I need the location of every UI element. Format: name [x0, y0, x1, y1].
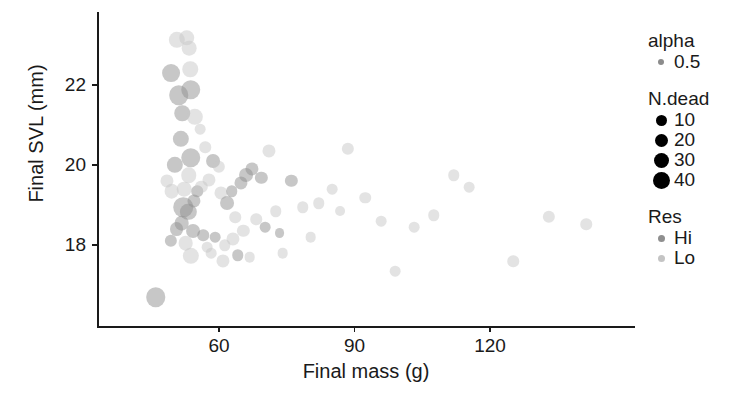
- data-point: [270, 205, 282, 217]
- legend-item[interactable]: 0.5: [648, 52, 749, 72]
- data-point: [275, 228, 285, 238]
- x-tick-label-60: 60: [189, 336, 249, 355]
- legend-swatch-icon: [648, 59, 674, 65]
- data-point: [428, 209, 440, 221]
- data-point: [342, 143, 354, 155]
- legend: alpha0.5N.dead10203040ResHiLo: [648, 30, 749, 268]
- legend-title-alpha: alpha: [648, 30, 749, 52]
- legend-item[interactable]: Hi: [648, 228, 749, 248]
- legend-dot-icon: [658, 235, 665, 242]
- data-point: [206, 248, 217, 259]
- y-tick-label-18: 18: [30, 235, 86, 254]
- data-point: [200, 141, 212, 153]
- data-point: [181, 148, 201, 168]
- data-point: [297, 201, 309, 213]
- legend-dot-icon: [654, 153, 669, 168]
- data-point: [146, 287, 166, 307]
- x-tick-120: [489, 327, 491, 332]
- legend-dot-icon: [656, 115, 667, 126]
- data-point: [464, 182, 475, 193]
- data-point: [448, 169, 460, 181]
- data-point: [277, 248, 288, 259]
- legend-item-label: 20: [674, 130, 695, 150]
- data-point: [177, 182, 192, 197]
- data-point: [305, 232, 316, 243]
- legend-item-label: 10: [674, 110, 695, 130]
- data-point: [220, 196, 234, 210]
- legend-block-n-dead: N.dead10203040: [648, 88, 749, 190]
- data-point: [210, 232, 221, 243]
- legend-item-label: Hi: [674, 228, 692, 248]
- data-point: [313, 197, 325, 209]
- x-tick-label-90: 90: [325, 336, 385, 355]
- data-point: [285, 175, 297, 187]
- legend-swatch-icon: [648, 115, 674, 126]
- legend-swatch-icon: [648, 172, 674, 189]
- legend-title-n-dead: N.dead: [648, 88, 749, 110]
- legend-item-label: 40: [674, 170, 695, 190]
- data-point: [543, 211, 555, 223]
- data-point: [203, 174, 216, 187]
- legend-item[interactable]: 30: [648, 150, 749, 170]
- scatter-plot-figure: 1820226090120 Final SVL (mm) Final mass …: [0, 0, 749, 405]
- legend-dot-icon: [653, 172, 670, 189]
- data-point: [219, 239, 231, 251]
- data-point: [360, 192, 372, 204]
- data-point: [260, 222, 271, 233]
- plot-panel: [97, 12, 635, 326]
- data-point: [217, 254, 230, 267]
- data-point: [181, 80, 201, 100]
- legend-item-label: 30: [674, 150, 695, 170]
- data-point: [195, 124, 206, 135]
- data-point: [197, 229, 209, 241]
- data-point: [237, 225, 249, 237]
- legend-spacer: [648, 190, 749, 206]
- legend-item[interactable]: 10: [648, 110, 749, 130]
- data-point: [390, 266, 401, 277]
- x-tick-90: [354, 327, 356, 332]
- legend-dot-icon: [658, 255, 665, 262]
- legend-swatch-icon: [648, 255, 674, 262]
- x-tick-60: [218, 327, 220, 332]
- data-point: [181, 167, 197, 183]
- legend-item[interactable]: Lo: [648, 248, 749, 268]
- data-point: [165, 235, 177, 247]
- legend-item-label: Lo: [674, 248, 695, 268]
- data-point: [212, 161, 224, 173]
- data-point: [508, 255, 520, 267]
- data-point: [262, 144, 275, 157]
- data-point: [327, 184, 338, 195]
- legend-block-alpha: alpha0.5: [648, 30, 749, 72]
- legend-dot-icon: [655, 134, 668, 147]
- data-point: [232, 249, 244, 261]
- data-point: [409, 222, 420, 233]
- data-point: [182, 61, 198, 77]
- legend-item[interactable]: 20: [648, 130, 749, 150]
- legend-swatch-icon: [648, 153, 674, 168]
- data-point: [580, 218, 592, 230]
- legend-item-label: 0.5: [674, 52, 700, 72]
- legend-block-res: ResHiLo: [648, 206, 749, 268]
- legend-spacer: [648, 72, 749, 88]
- data-point: [376, 216, 387, 227]
- legend-swatch-icon: [648, 235, 674, 242]
- data-point: [230, 211, 242, 223]
- data-point: [255, 172, 267, 184]
- x-axis-title: Final mass (g): [97, 360, 635, 383]
- data-point: [173, 131, 189, 147]
- x-tick-label-120: 120: [460, 336, 520, 355]
- legend-title-res: Res: [648, 206, 749, 228]
- legend-item[interactable]: 40: [648, 170, 749, 190]
- data-point: [335, 206, 345, 216]
- x-axis-line: [97, 326, 635, 328]
- data-point: [244, 252, 255, 263]
- data-point: [162, 64, 180, 82]
- legend-swatch-icon: [648, 134, 674, 147]
- data-point: [183, 248, 199, 264]
- data-point: [182, 41, 197, 56]
- data-point: [188, 194, 201, 207]
- legend-dot-icon: [658, 59, 664, 65]
- y-axis-title: Final SVL (mm): [25, 34, 48, 234]
- data-point: [170, 222, 184, 236]
